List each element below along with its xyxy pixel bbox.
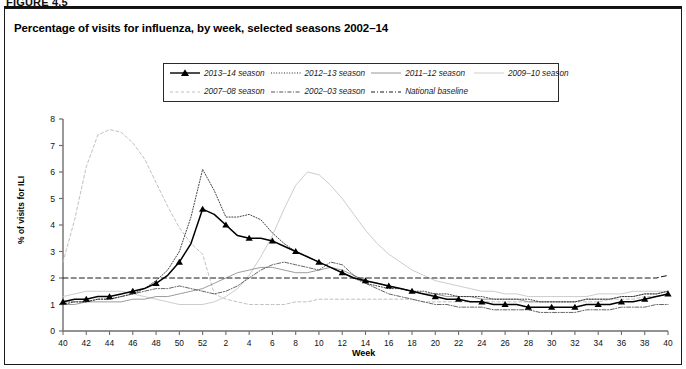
x-tick-label: 38: [640, 338, 650, 348]
x-tick-label: 18: [407, 338, 417, 348]
x-tick-label: 28: [524, 338, 534, 348]
y-tick-label: 8: [50, 114, 55, 124]
y-axis-label: % of visits for ILI: [16, 176, 26, 244]
y-tick-label: 5: [50, 194, 55, 204]
plot-area: 0123456784042444648505224681012141618202…: [0, 0, 686, 369]
x-tick-label: 6: [270, 338, 275, 348]
series-marker-triangle: [176, 259, 183, 265]
x-tick-label: 24: [477, 338, 487, 348]
y-tick-label: 7: [50, 141, 55, 151]
y-tick-label: 3: [50, 247, 55, 257]
x-tick-label: 44: [105, 338, 115, 348]
x-tick-label: 40: [663, 338, 673, 348]
figure-container: FIGURE 4.5 Percentage of visits for infl…: [0, 0, 686, 369]
x-tick-label: 32: [570, 338, 580, 348]
y-tick-label: 2: [50, 273, 55, 283]
y-tick-label: 0: [50, 326, 55, 336]
y-tick-label: 4: [50, 220, 55, 230]
x-tick-label: 22: [454, 338, 464, 348]
x-tick-label: 40: [58, 338, 68, 348]
x-tick-label: 4: [247, 338, 252, 348]
y-tick-label: 1: [50, 300, 55, 310]
series-line-2002-03-season: [63, 262, 668, 312]
x-tick-label: 36: [617, 338, 627, 348]
x-tick-label: 12: [338, 338, 348, 348]
x-tick-label: 20: [431, 338, 441, 348]
series-line-2013-14-season: [63, 209, 668, 307]
x-tick-label: 16: [384, 338, 394, 348]
x-tick-label: 8: [293, 338, 298, 348]
x-tick-label: 26: [500, 338, 510, 348]
chart-svg: 0123456784042444648505224681012141618202…: [0, 0, 686, 369]
x-tick-label: 52: [198, 338, 208, 348]
series-marker-triangle: [199, 206, 206, 212]
x-tick-label: 14: [361, 338, 371, 348]
x-tick-label: 42: [82, 338, 92, 348]
x-tick-label: 48: [151, 338, 161, 348]
y-tick-label: 6: [50, 167, 55, 177]
x-tick-label: 50: [175, 338, 185, 348]
x-tick-label: 34: [594, 338, 604, 348]
x-tick-label: 2: [224, 338, 229, 348]
x-tick-label: 10: [314, 338, 324, 348]
x-axis-label: Week: [352, 348, 375, 358]
x-tick-label: 30: [547, 338, 557, 348]
x-tick-label: 46: [128, 338, 138, 348]
